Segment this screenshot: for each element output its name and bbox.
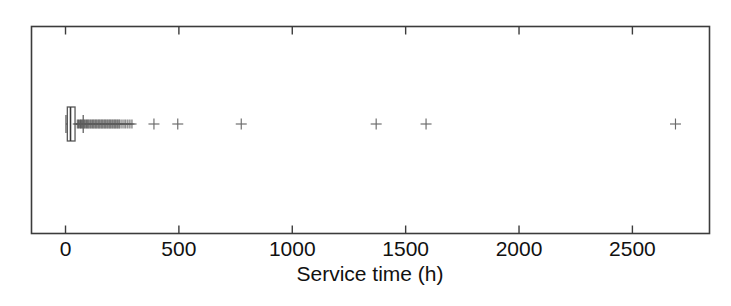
tick-label: 0: [60, 237, 72, 260]
x-axis-title: Service time (h): [296, 262, 443, 285]
tick-label: 2000: [496, 237, 543, 260]
tick-label: 500: [161, 237, 196, 260]
figure-container: 05001000150020002500 Service time (h): [0, 0, 731, 306]
plot-background: [0, 0, 731, 306]
box-plot-svg: 05001000150020002500 Service time (h): [0, 0, 731, 306]
tick-label: 1500: [382, 237, 429, 260]
tick-label: 1000: [269, 237, 316, 260]
tick-label: 2500: [609, 237, 656, 260]
